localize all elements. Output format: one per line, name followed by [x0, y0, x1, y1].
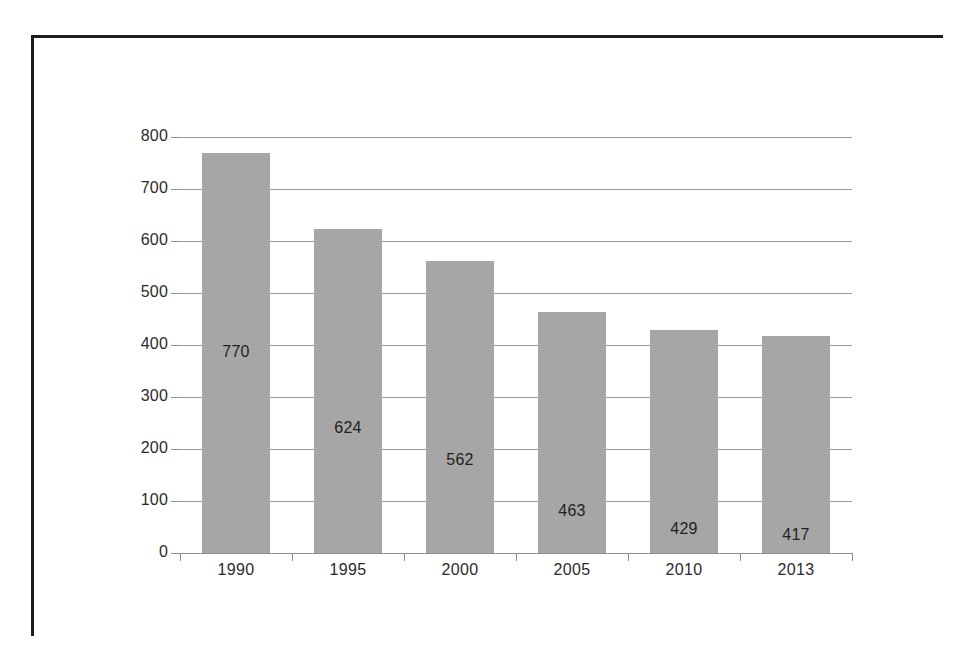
bar-chart: 770624562463429417 010020030040050060070… [0, 0, 957, 652]
y-axis-tick-label: 200 [122, 439, 168, 457]
x-axis-tick-label: 1990 [180, 561, 292, 579]
y-axis-tick-label: 700 [122, 179, 168, 197]
y-axis-tick-label: 600 [122, 231, 168, 249]
y-axis: 0100200300400500600700800 [0, 0, 957, 652]
x-axis-tick-label: 2013 [740, 561, 852, 579]
y-axis-tick-mark [171, 345, 180, 346]
x-axis-tick-mark [404, 553, 405, 561]
y-axis-tick-mark [171, 189, 180, 190]
x-axis-tick-mark [852, 553, 853, 561]
y-axis-tick-label: 300 [122, 387, 168, 405]
y-axis-tick-label: 100 [122, 491, 168, 509]
y-axis-tick-mark [171, 553, 180, 554]
x-axis-tick-mark [740, 553, 741, 561]
y-axis-tick-mark [171, 241, 180, 242]
y-axis-tick-label: 800 [122, 127, 168, 145]
y-axis-tick-label: 400 [122, 335, 168, 353]
x-axis-tick-mark [292, 553, 293, 561]
y-axis-tick-mark [171, 449, 180, 450]
x-axis-tick-label: 2010 [628, 561, 740, 579]
y-axis-tick-mark [171, 293, 180, 294]
y-axis-tick-mark [171, 137, 180, 138]
x-axis-tick-mark [628, 553, 629, 561]
x-axis-tick-label: 1995 [292, 561, 404, 579]
y-axis-tick-label: 500 [122, 283, 168, 301]
x-axis-tick-mark [180, 553, 181, 561]
y-axis-tick-label: 0 [122, 543, 168, 561]
x-axis-tick-label: 2000 [404, 561, 516, 579]
x-axis-tick-label: 2005 [516, 561, 628, 579]
x-axis-tick-mark [516, 553, 517, 561]
y-axis-tick-mark [171, 501, 180, 502]
y-axis-tick-mark [171, 397, 180, 398]
